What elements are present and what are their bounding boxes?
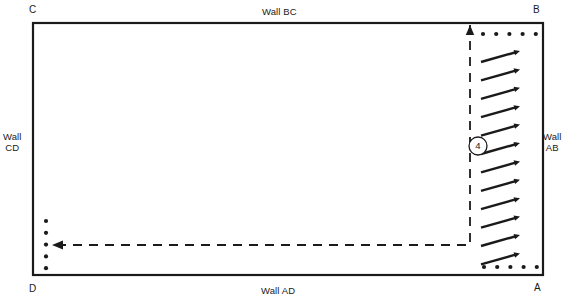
flow-arrow xyxy=(481,252,520,264)
dot-row-top xyxy=(481,32,538,36)
dot-marker-group xyxy=(44,32,539,270)
flow-arrow-shaft xyxy=(481,199,517,209)
dashed-flow-line xyxy=(52,25,470,245)
flow-arrow-head xyxy=(514,160,520,165)
flow-arrow xyxy=(481,197,520,209)
flow-arrow-head xyxy=(514,142,520,147)
dot-marker xyxy=(44,243,48,247)
flow-arrow-shaft xyxy=(481,107,517,117)
flow-arrow-shaft xyxy=(481,52,517,62)
flow-arrow-head xyxy=(514,105,520,110)
flow-arrow xyxy=(481,124,520,136)
flow-arrow xyxy=(481,87,520,99)
flow-arrow xyxy=(481,216,520,228)
flow-arrow-shaft xyxy=(481,181,517,191)
dot-marker xyxy=(494,32,498,36)
dot-row-bottom xyxy=(482,265,539,269)
dashed-path-group xyxy=(52,25,474,249)
wall-label-bc: Wall BC xyxy=(262,6,297,17)
wall-label-ab: WallAB xyxy=(543,131,562,153)
dot-marker xyxy=(44,254,48,258)
wall-label-cd-line2: CD xyxy=(3,142,22,153)
dot-marker xyxy=(495,265,499,269)
corner-label-d: D xyxy=(29,283,36,294)
dot-marker xyxy=(521,32,525,36)
corner-label-c: C xyxy=(29,4,36,15)
dot-marker xyxy=(44,231,48,235)
dot-marker xyxy=(508,265,512,269)
flow-arrow-head xyxy=(514,252,520,257)
flow-arrow-head xyxy=(514,68,520,73)
diagram-vector-layer: 4 xyxy=(0,0,569,302)
dot-marker xyxy=(534,32,538,36)
dot-marker xyxy=(481,32,485,36)
wall-label-ad: Wall AD xyxy=(261,285,295,296)
flow-arrow-head xyxy=(514,87,520,92)
flow-arrow-shaft xyxy=(481,162,517,172)
dot-marker xyxy=(44,266,48,270)
flow-arrow-shaft xyxy=(481,126,517,136)
corner-label-a: A xyxy=(534,282,541,293)
flow-arrow-head xyxy=(514,216,520,221)
wall-label-cd: WallCD xyxy=(3,131,22,153)
flow-arrow-head xyxy=(514,124,520,129)
flow-arrow-head xyxy=(514,179,520,184)
wall-label-ab-line1: Wall xyxy=(543,131,562,142)
flow-arrow xyxy=(481,179,520,191)
dashed-path-arrowhead-left xyxy=(52,241,63,250)
room-rectangle xyxy=(33,23,543,275)
diagram-canvas: 4 CBDAWall BCWall ADWallCDWallAB xyxy=(0,0,569,302)
dashed-path-arrowhead-up xyxy=(466,25,474,35)
flow-arrow-head xyxy=(514,234,520,239)
flow-arrow xyxy=(481,68,520,80)
flow-arrow xyxy=(481,50,520,62)
flow-arrow-head xyxy=(514,50,520,55)
dot-column-left xyxy=(44,219,48,270)
flow-arrow-group xyxy=(481,50,520,264)
room-boundary-group xyxy=(33,23,543,275)
wall-label-cd-line1: Wall xyxy=(3,131,22,142)
flow-arrow-shaft xyxy=(481,89,517,99)
corner-label-b: B xyxy=(533,4,540,15)
flow-arrow-shaft xyxy=(481,218,517,228)
flow-arrow xyxy=(481,234,520,246)
flow-arrow-shaft xyxy=(481,236,517,246)
wall-label-ab-line2: AB xyxy=(543,142,562,153)
dot-marker xyxy=(535,265,539,269)
region-marker-group: 4 xyxy=(469,137,487,155)
flow-arrow-shaft xyxy=(481,254,517,264)
dot-marker xyxy=(507,32,511,36)
flow-arrow-shaft xyxy=(481,70,517,80)
region-marker-4-label: 4 xyxy=(475,140,480,151)
dot-marker xyxy=(44,219,48,223)
dot-marker xyxy=(482,265,486,269)
dot-marker xyxy=(522,265,526,269)
flow-arrow-head xyxy=(514,197,520,202)
flow-arrow xyxy=(481,105,520,117)
flow-arrow xyxy=(481,160,520,172)
